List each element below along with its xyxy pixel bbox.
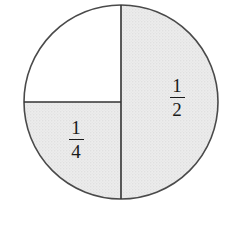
fraction-bar: [69, 139, 84, 140]
fraction-label-one-quarter: 1 4: [63, 118, 89, 161]
pie-chart-svg: [0, 0, 239, 228]
fraction-bar: [170, 97, 185, 98]
fraction-circle-figure: 1 2 1 4: [0, 0, 239, 228]
fraction-denominator: 2: [164, 100, 190, 119]
fraction-numerator: 1: [164, 76, 190, 95]
sector-unshaded: [24, 5, 121, 102]
fraction-label-one-half: 1 2: [164, 76, 190, 119]
fraction-numerator: 1: [63, 118, 89, 137]
fraction-denominator: 4: [63, 142, 89, 161]
